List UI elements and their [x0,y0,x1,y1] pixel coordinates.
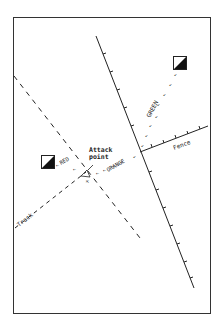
svg-text:←: ← [96,170,99,176]
svg-text:←: ← [56,162,59,168]
red-label: RED [59,156,71,166]
tactical-diagram: Fence Track ↙ ↙ ↙ ↙ ↙ ↙ ↙ ↙ ↙ GREEN ↙ ↙ … [0,0,221,324]
attack-label-line2: point [89,153,109,161]
attack-point-marker: ⇱ [81,165,93,184]
svg-text:↙: ↙ [169,81,172,87]
svg-text:↙: ↙ [174,71,177,77]
track-label: Track [15,211,34,228]
red-unit-icon [42,156,55,169]
fence-label: Fence [172,138,192,151]
green-unit-icon [174,57,187,70]
svg-text:↙: ↙ [155,113,158,119]
svg-text:⇱: ⇱ [86,178,89,184]
road-line [96,36,194,288]
svg-text:↙: ↙ [145,132,148,138]
svg-text:←: ← [73,166,76,172]
svg-text:↙: ↙ [149,122,152,128]
svg-text:↙: ↙ [141,142,144,148]
svg-text:↙: ↙ [163,91,166,97]
svg-text:↙: ↙ [133,153,136,159]
